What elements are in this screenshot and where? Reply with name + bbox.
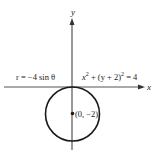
cartesian-mid: + (y + 2): [89, 72, 121, 82]
center-point-label: (0, −2): [75, 109, 98, 119]
x-axis-arrow-icon: [138, 85, 145, 90]
x-axis-label: x: [146, 82, 151, 92]
y-axis-label: y: [70, 7, 75, 17]
polar-equation-text: r = −4 sin θ: [16, 72, 55, 82]
polar-graph: x y (0, −2) r = −4 sin θ x2 + (y + 2)2 =…: [0, 0, 158, 156]
cartesian-equation: x2 + (y + 2)2 = 4: [81, 71, 138, 82]
polar-equation: r = −4 sin θ: [16, 72, 55, 82]
cartesian-rhs: = 4: [124, 72, 138, 82]
y-axis-arrow-icon: [70, 18, 75, 25]
center-point: [71, 112, 75, 116]
